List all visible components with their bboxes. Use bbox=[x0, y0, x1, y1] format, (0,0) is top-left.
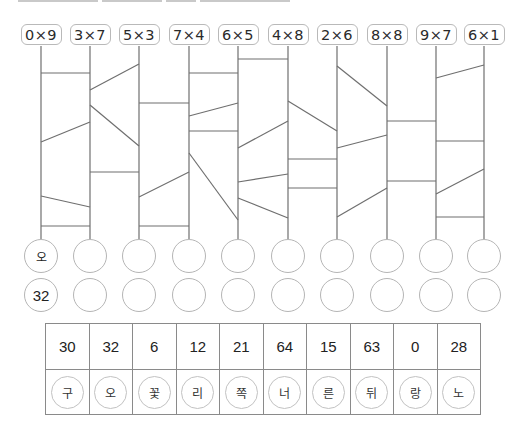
ladder-rung bbox=[189, 103, 238, 116]
multiplication-expression-box: 6×1 bbox=[464, 24, 505, 45]
lookup-character: 른 bbox=[312, 376, 345, 409]
ladder-rung bbox=[337, 135, 387, 148]
character-answer-circle[interactable] bbox=[122, 239, 156, 273]
lookup-number-cell: 12 bbox=[176, 324, 220, 370]
lookup-number-cell: 6 bbox=[133, 324, 177, 370]
lookup-number-cell: 0 bbox=[394, 324, 438, 370]
ladder-rung bbox=[337, 188, 387, 217]
lookup-character-cell: 쪽 bbox=[220, 370, 264, 415]
multiplication-expression-box: 3×7 bbox=[70, 24, 111, 45]
lookup-character-cell: 뒤 bbox=[350, 370, 394, 415]
product-answer-circle[interactable] bbox=[271, 278, 305, 312]
character-answer-circle[interactable] bbox=[467, 239, 501, 273]
multiplication-expression-box: 7×4 bbox=[169, 24, 210, 45]
ladder-rung bbox=[337, 66, 387, 106]
lookup-number-row: 30 32 6 12 21 64 15 63 0 28 bbox=[46, 324, 481, 370]
lookup-number-cell: 30 bbox=[46, 324, 90, 370]
character-answer-circle[interactable]: 오 bbox=[24, 239, 58, 273]
ladder-rung bbox=[288, 101, 337, 131]
lookup-character: 랑 bbox=[399, 376, 432, 409]
ladder-rung bbox=[238, 174, 288, 182]
character-answer-circle[interactable] bbox=[172, 239, 206, 273]
ladder-rung bbox=[41, 122, 90, 142]
multiplication-expression-box: 8×8 bbox=[367, 24, 408, 45]
product-answer-circle[interactable]: 32 bbox=[24, 278, 58, 312]
lookup-character-cell: 구 bbox=[46, 370, 90, 415]
lookup-character-cell: 너 bbox=[263, 370, 307, 415]
ladder-rung bbox=[436, 169, 484, 194]
lookup-character-row: 구 오 꽃 리 쪽 너 른 뒤 랑 노 bbox=[46, 370, 481, 415]
lookup-number-cell: 15 bbox=[307, 324, 351, 370]
lookup-character: 리 bbox=[181, 376, 214, 409]
lookup-character: 노 bbox=[442, 376, 475, 409]
ladder-rung bbox=[139, 172, 189, 197]
lookup-number-cell: 28 bbox=[437, 324, 481, 370]
ladder-rung bbox=[189, 153, 238, 220]
product-answer-circle[interactable] bbox=[467, 278, 501, 312]
lookup-number-cell: 63 bbox=[350, 324, 394, 370]
character-answer-circle[interactable] bbox=[320, 239, 354, 273]
multiplication-expression-box: 2×6 bbox=[317, 24, 358, 45]
lookup-character-cell: 랑 bbox=[394, 370, 438, 415]
lookup-character-cell: 꽃 bbox=[133, 370, 177, 415]
product-answer-circle[interactable] bbox=[370, 278, 404, 312]
character-answer-circle[interactable] bbox=[419, 239, 453, 273]
ladder-rung bbox=[41, 196, 90, 207]
ladder-rung bbox=[90, 105, 139, 146]
lookup-character: 뒤 bbox=[355, 376, 388, 409]
character-answer-circle[interactable] bbox=[370, 239, 404, 273]
product-answer-circle[interactable] bbox=[221, 278, 255, 312]
product-answer-circle[interactable] bbox=[419, 278, 453, 312]
product-answer-circle[interactable] bbox=[172, 278, 206, 312]
lookup-number-cell: 32 bbox=[89, 324, 133, 370]
product-answer-circle[interactable] bbox=[122, 278, 156, 312]
lookup-character-cell: 른 bbox=[307, 370, 351, 415]
lookup-character: 쪽 bbox=[225, 376, 258, 409]
ladder-rung bbox=[90, 64, 139, 90]
ladder-rung bbox=[238, 198, 288, 218]
multiplication-expression-box: 6×5 bbox=[218, 24, 259, 45]
lookup-table: 30 32 6 12 21 64 15 63 0 28 구 오 꽃 리 쪽 너 … bbox=[45, 323, 481, 415]
lookup-number-cell: 21 bbox=[220, 324, 264, 370]
character-answer-circle[interactable] bbox=[221, 239, 255, 273]
lookup-character: 구 bbox=[51, 376, 84, 409]
ladder-rung bbox=[436, 65, 484, 78]
product-answer-circle[interactable] bbox=[320, 278, 354, 312]
lookup-character: 너 bbox=[268, 376, 301, 409]
multiplication-expression-box: 5×3 bbox=[119, 24, 160, 45]
character-answer-circle[interactable] bbox=[73, 239, 107, 273]
character-answer-circle[interactable] bbox=[271, 239, 305, 273]
lookup-number-cell: 64 bbox=[263, 324, 307, 370]
lookup-character: 꽃 bbox=[138, 376, 171, 409]
multiplication-expression-box: 0×9 bbox=[21, 24, 62, 45]
multiplication-expression-box: 4×8 bbox=[268, 24, 309, 45]
lookup-character-cell: 노 bbox=[437, 370, 481, 415]
ladder-rung bbox=[238, 121, 288, 148]
product-answer-circle[interactable] bbox=[73, 278, 107, 312]
lookup-character: 오 bbox=[94, 376, 127, 409]
multiplication-expression-box: 9×7 bbox=[416, 24, 457, 45]
lookup-character-cell: 오 bbox=[89, 370, 133, 415]
lookup-character-cell: 리 bbox=[176, 370, 220, 415]
